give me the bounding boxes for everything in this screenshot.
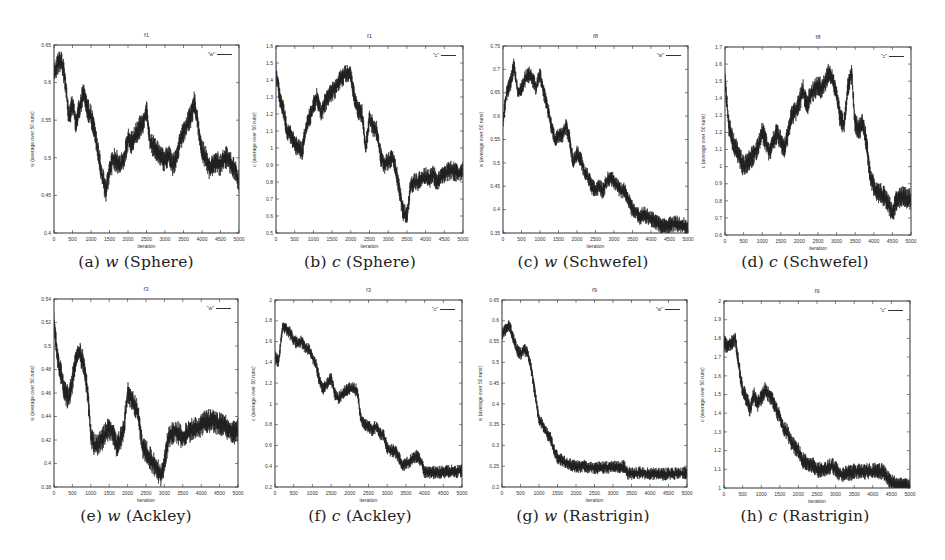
x-tick-label: 3000 (159, 236, 170, 242)
x-tick-label: 3500 (401, 236, 412, 242)
subfigure-caption-e: (e) w (Ackley) (80, 507, 191, 525)
x-tick-label: 500 (291, 236, 300, 242)
x-tick-label: 5000 (457, 236, 468, 242)
x-tick-label: 4500 (887, 238, 898, 244)
x-tick-label: 4000 (868, 238, 879, 244)
y-tick-label: 0.55 (490, 136, 500, 142)
x-axis-label: iteration (361, 243, 379, 249)
chart-panel-e: f305001000150020002500300035004000450050… (54, 299, 238, 487)
plot-frame (725, 47, 911, 235)
x-tick-label: 1500 (104, 236, 115, 242)
x-tick-label: 2500 (363, 490, 374, 496)
chart-title: f8 (593, 33, 599, 39)
y-tick-label: 1 (719, 163, 722, 169)
legend-label: "c" (881, 53, 887, 59)
caption-function: (Ackley) (346, 507, 412, 525)
x-tick-label: 5000 (904, 491, 915, 497)
data-series-line (724, 333, 910, 494)
plot-area: f305001000150020002500300035004000450050… (54, 299, 238, 487)
caption-letter: (e) (80, 507, 102, 525)
x-tick-label: 3000 (159, 490, 170, 496)
x-tick-label: 3500 (626, 490, 637, 496)
x-tick-label: 4500 (214, 490, 225, 496)
y-tick-label: 0.65 (489, 297, 499, 303)
y-tick-label: 0.8 (266, 179, 273, 185)
x-tick-label: 5000 (456, 490, 467, 496)
x-tick-label: 0 (502, 236, 505, 242)
x-tick-label: 2000 (345, 236, 356, 242)
y-tick-label: 1.1 (715, 146, 722, 152)
x-tick-label: 2000 (570, 490, 581, 496)
x-tick-label: 3000 (831, 238, 842, 244)
y-tick-label: 1.6 (265, 338, 272, 344)
x-tick-label: 4500 (663, 490, 674, 496)
x-tick-label: 4500 (664, 236, 675, 242)
y-tick-label: 1.1 (714, 466, 721, 472)
plot-frame (54, 45, 239, 233)
x-tick-label: 4000 (420, 236, 431, 242)
x-tick-label: 3500 (178, 236, 189, 242)
x-axis-label: iteration (137, 497, 155, 503)
y-tick-label: 1.3 (714, 429, 721, 435)
x-tick-label: 0 (53, 236, 56, 242)
chart-title: f3 (143, 286, 149, 292)
subfigure-caption-h: (h) c (Rastrigin) (741, 507, 870, 525)
y-axis-label: w (average over 50 runs) (478, 111, 484, 167)
x-tick-label: 0 (723, 491, 726, 497)
x-tick-label: 3000 (607, 490, 618, 496)
x-tick-label: 2500 (141, 236, 152, 242)
x-tick-label: 500 (739, 238, 748, 244)
x-tick-label: 3500 (850, 238, 861, 244)
y-tick-label: 1.2 (714, 447, 721, 453)
caption-variable: c (332, 507, 341, 525)
y-tick-label: 1.6 (714, 373, 721, 379)
caption-letter: (a) (78, 253, 100, 271)
chart-panel-c: f805001000150020002500300035004000450050… (503, 46, 688, 233)
x-tick-label: 3000 (608, 236, 619, 242)
legend-label: "w" (208, 51, 215, 57)
y-tick-label: 0.6 (715, 232, 722, 238)
y-axis-label: w (average over 50 runs) (29, 111, 35, 167)
x-tick-label: 3000 (382, 490, 393, 496)
y-tick-label: 0.6 (492, 317, 499, 323)
plot-area: f905001000150020002500300035004000450050… (724, 301, 910, 488)
caption-letter: (c) (518, 253, 539, 271)
caption-function: (Rastrigin) (563, 507, 650, 525)
caption-letter: (g) (516, 507, 539, 525)
y-tick-label: 0.35 (490, 230, 500, 236)
chart-title: f1 (144, 32, 150, 38)
caption-variable: c (332, 253, 341, 271)
y-tick-label: 0.65 (41, 42, 51, 48)
x-axis-label: iteration (587, 243, 605, 249)
plot-area: f305001000150020002500300035004000450050… (275, 300, 462, 487)
x-tick-label: 1000 (307, 490, 318, 496)
y-tick-label: 1.3 (266, 94, 273, 100)
y-tick-label: 0.5 (493, 160, 500, 166)
caption-variable: w (105, 253, 118, 271)
y-tick-label: 0.4 (492, 401, 499, 407)
x-tick-label: 2000 (794, 238, 805, 244)
y-tick-label: 0.45 (490, 183, 500, 189)
y-axis-label: w (average over 50 runs) (29, 365, 35, 421)
plot-area: f805001000150020002500300035004000450050… (503, 46, 688, 233)
legend: "c" (881, 53, 904, 59)
data-series-line (503, 59, 688, 236)
caption-variable: w (544, 507, 557, 525)
x-tick-label: 1500 (104, 490, 115, 496)
caption-variable: c (768, 507, 777, 525)
legend: "w" (657, 52, 681, 58)
x-tick-label: 5000 (233, 236, 244, 242)
x-tick-label: 5000 (905, 238, 916, 244)
plot-area: f805001000150020002500300035004000450050… (725, 47, 911, 235)
subfigure-caption-a: (a) w (Sphere) (78, 253, 194, 271)
y-tick-label: 0.7 (266, 196, 273, 202)
y-tick-label: 2 (718, 298, 721, 304)
y-tick-label: 0.38 (41, 484, 51, 490)
y-tick-label: 0.52 (41, 319, 51, 325)
data-series-line (275, 323, 462, 479)
legend: "w" (656, 306, 680, 312)
plot-area: f105001000150020002500300035004000450050… (276, 46, 463, 233)
x-tick-label: 1000 (85, 236, 96, 242)
y-tick-label: 0.8 (715, 198, 722, 204)
y-tick-label: 0.4 (44, 230, 51, 236)
